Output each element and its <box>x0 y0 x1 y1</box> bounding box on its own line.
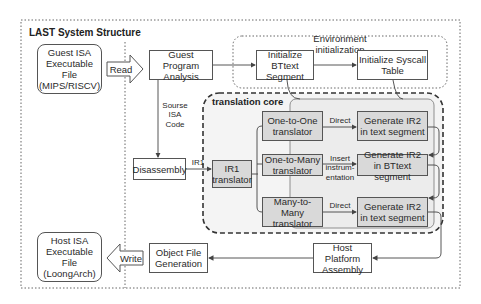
guest-program-analysis-node: Guest Program Analysis <box>149 50 213 80</box>
host-platform-assembly-node: Host Platform Assembly <box>313 243 372 273</box>
object-file-generation-node: Object File Generation <box>149 243 208 273</box>
ir1-translator-node: IR1 translator <box>212 160 252 188</box>
disassembly-node: Disassembly <box>133 158 186 180</box>
init-syscall-table-node: Initialize Syscall Table <box>357 50 428 80</box>
generate-ir2-text-node-2: Generate IR2 in text segment <box>357 197 428 227</box>
one-to-one-translator-node: One-to-One translator <box>262 111 323 141</box>
direct-label-2: Direct <box>326 201 354 211</box>
insert-instrumentation-label: Insert instrum- entation <box>323 153 357 183</box>
source-isa-code-label: Sourse ISA Code <box>160 100 190 130</box>
generate-ir2-bttext-node: Generate IR2 in BTtext segment <box>357 154 428 176</box>
many-to-many-translator-node: Many-to-Many translator <box>262 197 323 227</box>
write-label: Write <box>119 251 143 265</box>
direct-label-1: Direct <box>326 116 354 126</box>
one-to-many-translator-node: One-to-Many translator <box>262 154 323 176</box>
read-label: Read <box>109 62 133 76</box>
host-isa-file-node: Host ISA Executable File (LoongArch) <box>37 232 102 282</box>
ir1-label: IR1 <box>190 158 206 168</box>
generate-ir2-text-node-1: Generate IR2 in text segment <box>357 111 428 141</box>
guest-isa-file-node: Guest ISA Executable File (MIPS/RISCV) <box>37 44 102 94</box>
translation-core-label: translation core <box>212 96 283 107</box>
init-bttext-segment-node: Initialize BTtext Segment <box>256 50 314 80</box>
diagram-title: LAST System Structure <box>29 27 141 38</box>
